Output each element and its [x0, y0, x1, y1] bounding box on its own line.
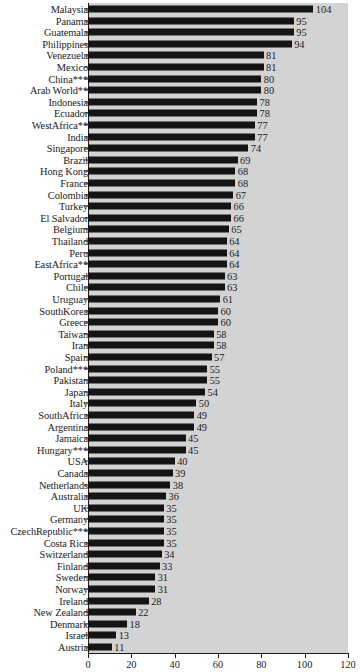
bar-row: Panama95	[0, 15, 363, 27]
bar-value-label: 55	[207, 363, 220, 374]
category-label: Portugal	[54, 270, 88, 281]
x-axis-tick	[131, 654, 132, 658]
bar-row: Japan54	[0, 386, 363, 398]
bar	[88, 435, 186, 442]
bar-row: Turkey66	[0, 200, 363, 212]
bar-value-label: 34	[162, 549, 175, 560]
bar-value-label: 33	[160, 560, 173, 571]
bar	[88, 87, 261, 94]
category-label: Switzerland	[39, 549, 88, 560]
bar	[88, 168, 235, 175]
x-axis-tick-label: 0	[85, 659, 90, 670]
bar	[88, 272, 225, 279]
bar-row: Taiwan58	[0, 328, 363, 340]
bar-value-label: 40	[175, 456, 188, 467]
category-label: Philippines	[42, 38, 88, 49]
bar-value-label: 38	[170, 479, 183, 490]
bar-row: Israel13	[0, 630, 363, 642]
bar	[88, 632, 116, 639]
bar-row: Netherlands38	[0, 479, 363, 491]
category-label: CzechRepublic***	[11, 525, 88, 536]
bar-row: Arab World**80	[0, 84, 363, 96]
bar	[88, 145, 248, 152]
bar	[88, 539, 164, 546]
x-axis-tick-label: 60	[213, 659, 223, 670]
bar	[88, 353, 212, 360]
bar	[88, 191, 233, 198]
bar	[88, 643, 112, 650]
bar	[88, 319, 218, 326]
bar-row: Canada39	[0, 467, 363, 479]
bar-value-label: 78	[257, 108, 270, 119]
bar-value-label: 35	[164, 525, 177, 536]
x-axis-ticks: 020406080100120	[0, 654, 363, 672]
bar-row: Spain57	[0, 351, 363, 363]
category-label: Guatemala	[44, 27, 88, 38]
category-label: Venezuela	[46, 50, 88, 61]
bar-value-label: 66	[231, 212, 244, 223]
bar-row: Finland33	[0, 560, 363, 572]
bar	[88, 574, 155, 581]
bar-value-label: 63	[225, 282, 238, 293]
category-label: Poland***	[44, 363, 88, 374]
bar	[88, 330, 214, 337]
x-axis-tick-label: 20	[126, 659, 136, 670]
bar-row: Venezuela81	[0, 50, 363, 62]
bar	[88, 342, 214, 349]
bar-row: Singapore74	[0, 142, 363, 154]
x-axis-tick	[175, 654, 176, 658]
bar-value-label: 22	[136, 607, 149, 618]
x-axis-tick	[348, 654, 349, 658]
bar-value-label: 61	[220, 293, 233, 304]
bar-value-label: 58	[214, 328, 227, 339]
bar	[88, 469, 173, 476]
bar	[88, 29, 294, 36]
bar-value-label: 31	[155, 572, 168, 583]
bar-row: EastAfrica**64	[0, 258, 363, 270]
bar-value-label: 80	[261, 73, 274, 84]
category-label: SouthAfrica	[38, 409, 88, 420]
bar-value-label: 67	[233, 189, 246, 200]
bar-value-label: 35	[164, 537, 177, 548]
bar-row: Indonesia78	[0, 96, 363, 108]
bar-value-label: 94	[292, 38, 305, 49]
bar-row: Brazil69	[0, 154, 363, 166]
bar-row: Guatemala95	[0, 26, 363, 38]
category-label: Colombia	[48, 189, 88, 200]
bar-value-label: 45	[186, 444, 199, 455]
bar-row: Peru64	[0, 247, 363, 259]
bar-row: Austria11	[0, 641, 363, 653]
bar-row: Ireland28	[0, 595, 363, 607]
category-label: EastAfrica**	[34, 259, 88, 270]
bar	[88, 585, 155, 592]
bar	[88, 179, 235, 186]
bar	[88, 5, 313, 12]
bar-row: Denmark18	[0, 618, 363, 630]
bar-row: Pakistan55	[0, 374, 363, 386]
bar-value-label: 64	[227, 235, 240, 246]
bar-row: Mexico81	[0, 61, 363, 73]
x-axis-tick	[218, 654, 219, 658]
bar	[88, 284, 225, 291]
category-label: Indonesia	[49, 96, 89, 107]
bar-row: Hungary***45	[0, 444, 363, 456]
category-label: SouthKorea	[39, 305, 88, 316]
bar-value-label: 45	[186, 433, 199, 444]
bar-value-label: 35	[164, 514, 177, 525]
bar	[88, 75, 261, 82]
x-axis-tick	[261, 654, 262, 658]
bar	[88, 156, 238, 163]
category-label: Ecuador	[54, 108, 88, 119]
bar	[88, 249, 227, 256]
bar	[88, 237, 227, 244]
bar-value-label: 28	[149, 595, 162, 606]
bar-value-label: 60	[218, 317, 231, 328]
bar-value-label: 39	[173, 467, 186, 478]
category-label: Belgium	[53, 224, 88, 235]
bar-value-label: 55	[207, 375, 220, 386]
x-axis-tick	[305, 654, 306, 658]
bar-value-label: 63	[225, 270, 238, 281]
category-label: Uruguay	[52, 293, 88, 304]
bar-row: Iran58	[0, 340, 363, 352]
bar-row: Argentina49	[0, 421, 363, 433]
